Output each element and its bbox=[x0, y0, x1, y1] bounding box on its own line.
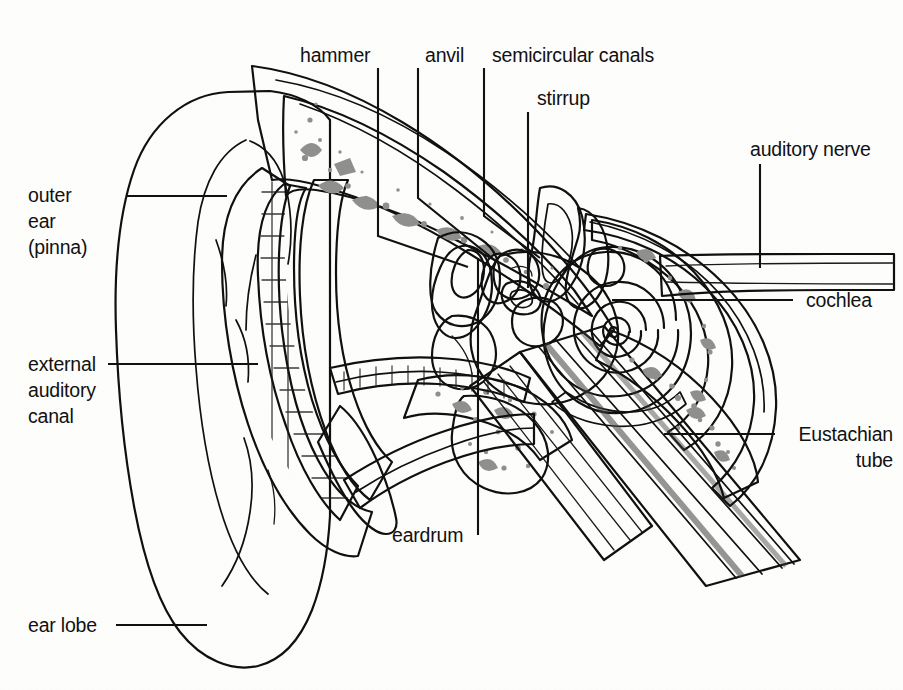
label-ear-lobe: ear lobe bbox=[28, 614, 97, 636]
label-anvil: anvil bbox=[425, 44, 464, 66]
label-semicircular-canals: semicircular canals bbox=[492, 44, 654, 66]
ear-diagram-stage: outer ear (pinna) external auditory cana… bbox=[0, 0, 903, 690]
label-outer-ear-line-1: outer bbox=[28, 184, 72, 206]
diagram-background bbox=[0, 0, 903, 690]
label-external-auditory-canal-line-1: external bbox=[28, 353, 96, 375]
ear-anatomy-svg: outer ear (pinna) external auditory cana… bbox=[0, 0, 903, 690]
label-stirrup: stirrup bbox=[537, 87, 590, 109]
label-cochlea: cochlea bbox=[806, 289, 872, 311]
label-eustachian-tube-line-2: tube bbox=[856, 449, 893, 471]
label-external-auditory-canal-line-3: canal bbox=[28, 405, 74, 427]
label-auditory-nerve: auditory nerve bbox=[750, 138, 871, 160]
label-outer-ear-line-2: ear bbox=[28, 210, 56, 232]
label-eustachian-tube-line-1: Eustachian bbox=[799, 423, 893, 445]
label-hammer: hammer bbox=[300, 44, 371, 66]
label-external-auditory-canal-line-2: auditory bbox=[28, 379, 96, 401]
label-eardrum: eardrum bbox=[392, 524, 463, 546]
label-outer-ear-line-3: (pinna) bbox=[28, 236, 87, 258]
